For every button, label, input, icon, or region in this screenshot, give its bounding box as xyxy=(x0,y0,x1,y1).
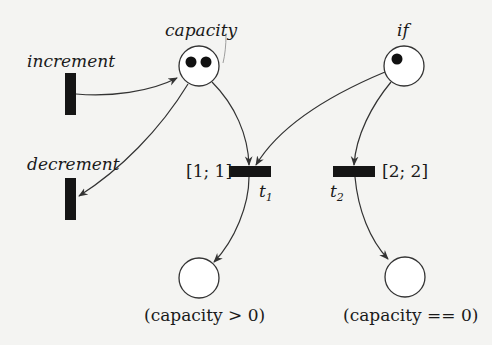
arc-increment-capacity xyxy=(76,78,177,95)
place-capacity xyxy=(179,35,226,86)
transition-decrement xyxy=(65,178,76,220)
label-capacity-positive: (capacity > 0) xyxy=(144,305,265,325)
token-icon xyxy=(392,54,403,65)
label-t2-interval: [2; 2] xyxy=(382,161,428,181)
transition-t2 xyxy=(333,166,375,177)
transition-t1 xyxy=(229,166,271,177)
token-icon xyxy=(186,57,197,68)
label-increment: increment xyxy=(27,51,115,71)
label-t1: t1 xyxy=(259,181,273,204)
arc-t2-p-zero xyxy=(355,177,388,259)
arc-capacity-t1 xyxy=(212,82,249,165)
label-decrement: decrement xyxy=(27,154,120,174)
arc-if-t1 xyxy=(256,72,385,165)
label-t2: t2 xyxy=(330,181,344,204)
arc-capacity-decrement xyxy=(79,84,188,196)
token-icon xyxy=(201,57,212,68)
place-capacity-zero xyxy=(385,257,425,297)
label-if: if xyxy=(397,20,411,40)
arc-t1-p-pos xyxy=(214,177,249,262)
transition-increment xyxy=(65,73,76,115)
label-t1-interval: [1; 1] xyxy=(186,161,232,181)
petri-net-diagram: capacity if increment decrement [1; 1] [… xyxy=(0,0,492,345)
place-capacity-positive xyxy=(179,258,219,298)
place-if xyxy=(384,46,424,86)
label-capacity-zero: (capacity == 0) xyxy=(343,305,478,325)
label-capacity: capacity xyxy=(165,20,237,40)
arc-if-t2 xyxy=(354,82,391,165)
